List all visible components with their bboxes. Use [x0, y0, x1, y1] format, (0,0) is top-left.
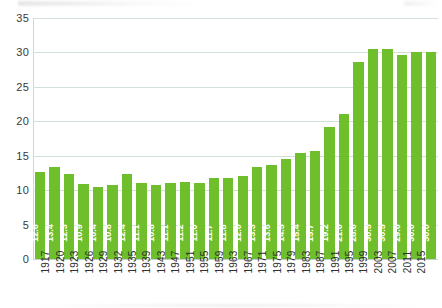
bar-value-label: 11.1 — [132, 224, 141, 241]
bar-slot[interactable]: 12.3 — [64, 18, 74, 259]
bar-slot[interactable]: 11.7 — [209, 18, 219, 259]
bar-slot[interactable]: 12.6 — [35, 18, 45, 259]
bar-slot[interactable]: 28.6 — [353, 18, 363, 259]
x-tick-label-slot: 1959 — [207, 262, 221, 308]
bar-slot[interactable]: 11.1 — [136, 18, 146, 259]
x-tick-label-slot: 1935 — [120, 262, 134, 308]
bar-slot[interactable]: 10.4 — [93, 18, 103, 259]
bar[interactable] — [35, 172, 45, 259]
bar-value-label: 13.3 — [248, 224, 257, 242]
x-tick-label-slot: 1920 — [47, 262, 61, 308]
x-tick-label-slot: 1947 — [163, 262, 177, 308]
bar-value-label: 10.8 — [147, 224, 156, 242]
bar-slot[interactable]: 19.2 — [324, 18, 334, 259]
bar-slot[interactable]: 11.2 — [180, 18, 190, 259]
bar[interactable] — [223, 178, 233, 259]
x-tick-label-slot: 1963 — [221, 262, 235, 308]
bar[interactable] — [310, 151, 320, 259]
bar-slot[interactable]: 30.5 — [368, 18, 378, 259]
x-tick-label-slot: 1932 — [105, 262, 119, 308]
bar-slot[interactable]: 14.5 — [281, 18, 291, 259]
bar[interactable] — [252, 167, 262, 259]
bar-value-label: 30.5 — [364, 224, 373, 242]
x-tick-label-slot: 1999 — [351, 262, 365, 308]
bar-value-label: 19.2 — [321, 224, 330, 242]
bar-value-label: 11.0 — [190, 224, 199, 241]
x-tick-label-slot: 1951 — [178, 262, 192, 308]
y-tick-label: 20 — [3, 115, 29, 127]
bar[interactable] — [165, 183, 175, 259]
bar-value-label: 12.0 — [234, 224, 243, 242]
x-tick-label-slot: 1967 — [236, 262, 250, 308]
x-tick-label-slot: 1983 — [293, 262, 307, 308]
bar-value-label: 29.6 — [393, 224, 402, 242]
bar-slot[interactable]: 15.4 — [295, 18, 305, 259]
bar[interactable] — [93, 187, 103, 259]
x-tick-label-slot: 2003 — [366, 262, 380, 308]
scan-artifact-bottom — [30, 304, 430, 307]
plot-area: 12.613.412.310.910.410.812.411.110.811.1… — [33, 18, 438, 259]
bar[interactable] — [266, 165, 276, 259]
bar-series: 12.613.412.310.910.410.812.411.110.811.1… — [33, 18, 438, 259]
bar[interactable] — [209, 178, 219, 259]
bar-slot[interactable]: 11.0 — [194, 18, 204, 259]
bar-slot[interactable]: 21.0 — [339, 18, 349, 259]
bar-slot[interactable]: 13.3 — [252, 18, 262, 259]
scan-artifact-top-left — [18, 1, 208, 6]
x-tick-label-slot: 1943 — [149, 262, 163, 308]
bar[interactable] — [49, 167, 59, 259]
bar-value-label: 10.8 — [104, 224, 113, 242]
bar[interactable] — [64, 174, 74, 259]
bar-slot[interactable]: 13.4 — [49, 18, 59, 259]
bar-value-label: 13.6 — [263, 224, 272, 242]
x-tick-label-slot: 1939 — [134, 262, 148, 308]
y-tick-label: 35 — [3, 12, 29, 24]
bar-slot[interactable]: 13.6 — [266, 18, 276, 259]
bar-slot[interactable]: 15.7 — [310, 18, 320, 259]
y-tick-label: 5 — [3, 219, 29, 231]
bar-value-label: 15.7 — [306, 224, 315, 242]
bar-value-label: 11.2 — [176, 224, 185, 241]
bar-value-label: 15.4 — [292, 224, 301, 242]
bar-slot[interactable]: 29.6 — [397, 18, 407, 259]
x-tick-label-slot: 2011 — [395, 262, 409, 308]
bar-slot[interactable]: 12.4 — [122, 18, 132, 259]
x-tick-label-slot: 1955 — [192, 262, 206, 308]
bar-slot[interactable]: 10.9 — [78, 18, 88, 259]
bar-value-label: 12.6 — [31, 224, 40, 242]
bar[interactable] — [107, 185, 117, 259]
bar-slot[interactable]: 30.0 — [426, 18, 436, 259]
bar[interactable] — [151, 185, 161, 259]
x-tick-label-slot: 1979 — [279, 262, 293, 308]
x-tick-label: 2015 — [416, 250, 427, 273]
bar[interactable] — [295, 153, 305, 259]
y-tick-label: 10 — [3, 184, 29, 196]
bar-slot[interactable]: 30.5 — [382, 18, 392, 259]
bar[interactable] — [180, 182, 190, 259]
bar-slot[interactable]: 11.1 — [165, 18, 175, 259]
bar-slot[interactable]: 10.8 — [151, 18, 161, 259]
scan-artifact-top-right — [404, 1, 438, 6]
bar-value-label: 12.4 — [118, 224, 127, 242]
bar-slot[interactable]: 12.0 — [238, 18, 248, 259]
bar-slot[interactable]: 11.8 — [223, 18, 233, 259]
bar-value-label: 10.4 — [89, 224, 98, 242]
y-tick-label: 30 — [3, 46, 29, 58]
x-tick-label-slot: 1995 — [337, 262, 351, 308]
x-tick-label-slot: 1917 — [33, 262, 47, 308]
bar-value-label: 11.1 — [161, 224, 170, 241]
x-tick-label-slot: 2007 — [380, 262, 394, 308]
bar[interactable] — [78, 184, 88, 259]
bar[interactable] — [194, 183, 204, 259]
bar[interactable] — [238, 176, 248, 259]
bar[interactable] — [281, 159, 291, 259]
y-tick-label: 25 — [3, 81, 29, 93]
bar[interactable] — [122, 174, 132, 259]
x-tick-label-slot: 1975 — [264, 262, 278, 308]
bar[interactable] — [136, 183, 146, 259]
bar-value-label: 21.0 — [335, 224, 344, 242]
y-tick-label: 15 — [3, 150, 29, 162]
bar-value-label: 13.4 — [46, 224, 55, 242]
bar-slot[interactable]: 10.8 — [107, 18, 117, 259]
bar-slot[interactable]: 30.0 — [411, 18, 421, 259]
